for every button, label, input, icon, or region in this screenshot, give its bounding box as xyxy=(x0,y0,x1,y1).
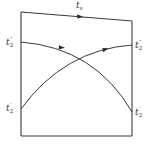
label-right-lower-sub: 2 xyxy=(139,112,143,118)
label-left-upper: t2″ xyxy=(6,37,12,49)
label-left-upper-sup: ″ xyxy=(10,36,12,42)
phase-diagram xyxy=(0,0,150,151)
frame-top-edge xyxy=(21,12,132,21)
label-left-lower-sub: 2 xyxy=(10,108,14,114)
falling-curve xyxy=(21,42,132,112)
label-right-lower: t2′ xyxy=(135,107,140,119)
top-edge-arrow-icon xyxy=(77,14,83,19)
label-right-upper-sub: 2 xyxy=(139,45,143,51)
rising-curve xyxy=(21,45,132,109)
label-left-upper-sub: 2 xyxy=(10,42,14,48)
label-left-lower: t2′ xyxy=(6,103,11,115)
label-top-edge: ts xyxy=(76,1,82,12)
label-top-edge-sub: s xyxy=(80,5,83,11)
rising-curve-arrow-icon xyxy=(102,48,108,52)
label-right-upper-sup: ″ xyxy=(139,39,141,45)
falling-curve-arrow-icon xyxy=(59,45,65,49)
label-right-upper: t2″ xyxy=(135,40,141,52)
